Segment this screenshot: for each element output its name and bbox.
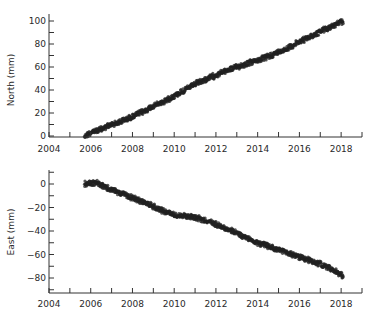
data-point [317,34,320,37]
data-point [342,22,345,25]
north-y-axis-label: North (mm) [6,54,16,107]
y-tick-label: −80 [27,273,46,283]
east-axes: 200420062008201020122014201620180−20−40−… [27,170,362,309]
x-tick-label: 2010 [163,299,186,309]
x-tick-label: 2008 [121,144,144,154]
x-tick-label: 2016 [288,299,311,309]
y-tick-label: 100 [29,16,46,26]
x-tick-label: 2004 [38,144,61,154]
x-tick-label: 2012 [204,299,227,309]
y-tick-label: 40 [35,85,47,95]
x-tick-label: 2006 [79,299,102,309]
data-point [342,275,345,278]
x-tick-label: 2010 [163,144,186,154]
east-data-points [83,179,345,280]
north-panel: 2004200620082010201220142016201802040608… [6,14,362,154]
data-point [106,184,109,187]
x-tick-label: 2018 [330,299,353,309]
x-tick-label: 2004 [38,299,61,309]
x-tick-label: 2012 [204,144,227,154]
data-point [303,41,306,44]
y-tick-label: −20 [27,203,46,213]
x-tick-label: 2016 [288,144,311,154]
y-tick-label: 0 [40,179,46,189]
north-data-points [83,18,345,139]
figure: 2004200620082010201220142016201802040608… [0,0,385,326]
y-tick-label: −60 [27,250,46,260]
x-tick-label: 2014 [246,299,269,309]
x-tick-label: 2006 [79,144,102,154]
x-tick-label: 2008 [121,299,144,309]
y-tick-label: 80 [35,39,47,49]
east-panel: 200420062008201020122014201620180−20−40−… [6,170,362,309]
east-y-axis-label: East (mm) [6,209,16,256]
x-tick-label: 2018 [330,144,353,154]
y-tick-label: 20 [35,108,47,118]
x-tick-label: 2014 [246,144,269,154]
y-tick-label: 60 [35,62,47,72]
y-tick-label: −40 [27,226,46,236]
y-tick-label: 0 [40,131,46,141]
